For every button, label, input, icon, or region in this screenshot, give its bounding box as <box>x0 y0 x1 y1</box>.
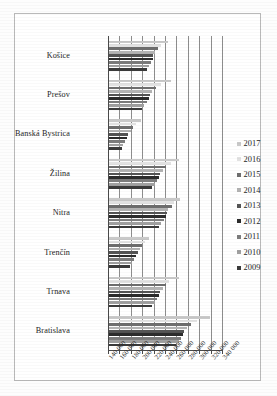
bar <box>109 215 166 218</box>
bar <box>109 291 160 294</box>
legend-swatch <box>237 250 241 254</box>
bar <box>109 126 133 129</box>
legend-swatch <box>237 219 241 223</box>
bar <box>109 241 145 244</box>
bar <box>109 94 150 97</box>
bar <box>109 298 157 301</box>
legend-item[interactable]: 2015 <box>237 167 277 183</box>
gridline <box>188 36 189 351</box>
bar <box>109 68 147 71</box>
bar <box>109 327 187 330</box>
bar <box>109 133 128 136</box>
category-label: Žilina <box>50 169 70 178</box>
legend-label: 2016 <box>244 155 261 164</box>
legend-item[interactable]: 2016 <box>237 152 277 168</box>
legend-item[interactable]: 2013 <box>237 198 277 214</box>
legend-item[interactable]: 2017 <box>237 136 277 152</box>
bar <box>109 258 134 261</box>
bar-group <box>109 36 168 75</box>
bar <box>109 320 197 323</box>
bar-group <box>109 115 141 154</box>
bar <box>109 97 149 100</box>
bar <box>109 287 163 290</box>
category-label: Košice <box>47 51 70 60</box>
bar <box>109 58 153 61</box>
gridline <box>199 36 200 351</box>
gridline <box>211 36 212 351</box>
plot-area <box>108 36 222 351</box>
category-label: Nitra <box>53 208 70 217</box>
bar <box>109 305 152 308</box>
bar <box>109 251 138 254</box>
bar-group <box>109 154 179 193</box>
category-label: Trenčín <box>44 248 70 257</box>
category-label: Trnava <box>47 287 71 296</box>
legend-swatch <box>237 204 241 208</box>
bar-group <box>109 233 149 272</box>
category-label: Bratislava <box>36 326 70 335</box>
bar <box>109 51 155 54</box>
legend-swatch <box>237 173 241 177</box>
legend-item[interactable]: 2014 <box>237 183 277 199</box>
legend-label: 2014 <box>244 186 261 195</box>
bar <box>109 173 160 176</box>
bar <box>109 255 136 258</box>
bar <box>109 137 127 140</box>
legend-swatch <box>237 142 241 146</box>
bar <box>109 205 172 208</box>
legend-item[interactable]: 2012 <box>237 214 277 230</box>
bar <box>109 277 179 280</box>
chart-frame: KošicePrešovBanská BystricaŽilinaNitraTr… <box>14 13 261 381</box>
bar <box>109 80 171 83</box>
bar <box>109 284 166 287</box>
legend-item[interactable]: 2010 <box>237 245 277 261</box>
bar <box>109 147 122 150</box>
bar <box>109 265 130 268</box>
bar <box>109 219 164 222</box>
bar <box>109 212 167 215</box>
bar <box>109 316 210 319</box>
bar <box>109 90 152 93</box>
legend-swatch <box>237 266 241 270</box>
bar <box>109 198 180 201</box>
legend-swatch <box>237 235 241 239</box>
bar <box>109 47 158 50</box>
bar <box>109 294 159 297</box>
bar <box>109 248 140 251</box>
bar-group <box>109 194 180 233</box>
bar <box>109 208 168 211</box>
bar <box>109 169 163 172</box>
category-label: Banská Bystrica <box>15 129 70 138</box>
legend-label: 2011 <box>244 232 260 241</box>
legend-swatch <box>237 188 241 192</box>
bar <box>109 87 156 90</box>
bar <box>109 123 136 126</box>
legend-swatch <box>237 157 241 161</box>
bar <box>109 162 171 165</box>
bar <box>109 65 149 68</box>
bar <box>109 140 125 143</box>
bar <box>109 101 147 104</box>
bar <box>109 183 155 186</box>
bar <box>109 186 152 189</box>
bar <box>109 83 161 86</box>
bar <box>109 119 141 122</box>
bar <box>109 166 166 169</box>
legend-item[interactable]: 2009 <box>237 260 277 276</box>
legend-item[interactable]: 2011 <box>237 229 277 245</box>
bar <box>109 176 159 179</box>
bar <box>109 130 131 133</box>
chart-legend: 201720162015201420132012201120102009 <box>237 136 277 276</box>
bar <box>109 237 149 240</box>
gridline <box>222 36 223 351</box>
bar <box>109 44 161 47</box>
bar <box>109 108 142 111</box>
bar <box>109 41 168 44</box>
bar <box>109 104 144 107</box>
legend-label: 2015 <box>244 170 261 179</box>
legend-label: 2017 <box>244 139 261 148</box>
bar <box>109 333 183 336</box>
category-label: Prešov <box>47 90 70 99</box>
bar-group <box>109 75 171 114</box>
legend-label: 2012 <box>244 217 261 226</box>
